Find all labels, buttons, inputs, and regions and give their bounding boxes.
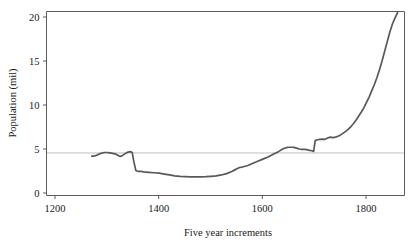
- y-tick-label: 5: [34, 144, 39, 155]
- x-tick-label: 1800: [356, 203, 377, 214]
- y-tick-label: 0: [34, 188, 39, 199]
- x-axis-title: Five year increments: [184, 227, 272, 238]
- y-tick-label: 15: [29, 56, 40, 67]
- x-tick-label: 1200: [45, 203, 66, 214]
- y-tick-label: 10: [29, 100, 40, 111]
- y-tick-label: 20: [29, 12, 40, 23]
- y-axis-title: Population (mil): [7, 68, 19, 138]
- x-tick-label: 1400: [148, 203, 169, 214]
- population-line-chart-figure: 05101520 1200140016001800 Population (mi…: [0, 0, 419, 244]
- x-tick-label: 1600: [252, 203, 273, 214]
- chart-canvas: 05101520 1200140016001800 Population (mi…: [0, 0, 419, 244]
